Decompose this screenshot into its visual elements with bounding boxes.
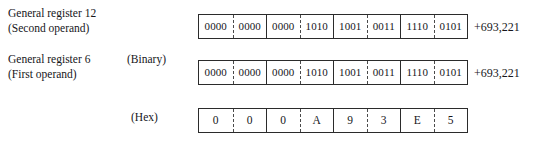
hex-radix-label: (Hex) [131,110,158,125]
bit-nibble: 0011 [367,15,401,38]
bit-nibble: 1010 [300,15,334,38]
hex-digit: 0 [233,109,267,132]
bit-nibble: 0000 [233,61,267,84]
register-12-label-line-1: General register 12 [8,6,96,21]
bit-nibble: 0000 [266,61,300,84]
register-12-binary-row: 0000 0000 0000 1010 1001 0011 1110 0101 [198,14,468,39]
bit-nibble: 1010 [300,61,334,84]
bit-nibble: 0101 [434,15,468,38]
bit-nibble: 0000 [233,15,267,38]
hex-digit: A [300,109,334,132]
figure-container: General register 12 (Second operand) 000… [0,0,538,148]
bit-nibble: 0000 [266,15,300,38]
hex-digit: 3 [367,109,401,132]
register-6-binary-row: 0000 0000 0000 1010 1001 0011 1110 0101 [198,60,468,85]
bit-nibble: 1001 [333,15,367,38]
register-12-label: General register 12 (Second operand) [8,6,96,36]
hex-digit: 9 [333,109,367,132]
bit-nibble: 0101 [434,61,468,84]
hex-digit: 0 [199,109,233,132]
register-6-label-line-2: (First operand) [8,67,90,82]
register-12-label-line-2: (Second operand) [8,21,96,36]
hex-digit: 5 [434,109,468,132]
register-6-label: General register 6 (First operand) [8,52,90,82]
hex-digit: E [400,109,434,132]
bit-nibble: 0000 [199,15,233,38]
bit-nibble: 1110 [400,61,434,84]
bit-nibble: 0000 [199,61,233,84]
binary-radix-label: (Binary) [127,52,166,67]
hex-digit: 0 [266,109,300,132]
bit-nibble: 1001 [333,61,367,84]
bit-nibble: 1110 [400,15,434,38]
register-12-decimal-annotation: +693,221 [474,21,520,33]
hex-row: 0 0 0 A 9 3 E 5 [198,108,468,133]
register-6-label-line-1: General register 6 [8,52,90,67]
register-6-decimal-annotation: +693,221 [474,67,520,79]
bit-nibble: 0011 [367,61,401,84]
